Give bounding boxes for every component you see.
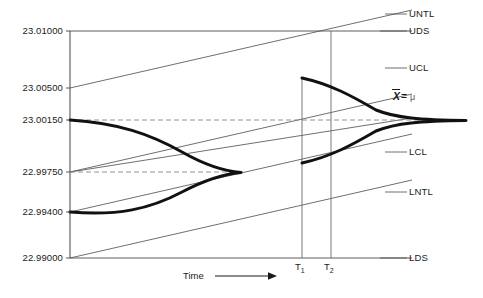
t2-subscript: 2 bbox=[330, 267, 334, 274]
untl-limit-line bbox=[70, 10, 412, 88]
ucl-limit-line bbox=[70, 94, 412, 172]
y-tick-label-23-00150: 23.00150 bbox=[0, 114, 63, 125]
process-mean-label: X= μ bbox=[392, 90, 415, 102]
untl-label: UNTL bbox=[409, 8, 435, 19]
lcl-label: LCL bbox=[409, 146, 427, 157]
lntl-label: LNTL bbox=[409, 186, 433, 197]
t1-subscript: 1 bbox=[301, 267, 305, 274]
y-tick-label-22-99000: 22.99000 bbox=[0, 252, 63, 263]
ucl-label: UCL bbox=[409, 62, 429, 73]
lntl-limit-line bbox=[70, 180, 412, 258]
y-tick-label-23-00500: 23.00500 bbox=[0, 82, 63, 93]
y-tick-label-22-99400: 22.99400 bbox=[0, 206, 63, 217]
y-tick-label-23-01000: 23.01000 bbox=[0, 25, 63, 36]
mu-symbol: μ bbox=[410, 92, 415, 102]
distribution-curve-t1 bbox=[302, 78, 466, 163]
equals-symbol: = bbox=[401, 90, 407, 102]
x-bar-symbol: X bbox=[392, 90, 401, 102]
lds-label: LDS bbox=[409, 252, 428, 263]
time-arrow-head bbox=[268, 272, 277, 280]
t2-axis-label: T2 bbox=[324, 261, 334, 274]
uds-label: UDS bbox=[409, 25, 430, 36]
spc-tool-wear-chart: 23.01000 23.00500 23.00150 22.99750 22.9… bbox=[0, 0, 483, 298]
t1-axis-label: T1 bbox=[295, 261, 305, 274]
y-tick-label-22-99750: 22.99750 bbox=[0, 166, 63, 177]
time-axis-caption: Time bbox=[183, 270, 204, 281]
